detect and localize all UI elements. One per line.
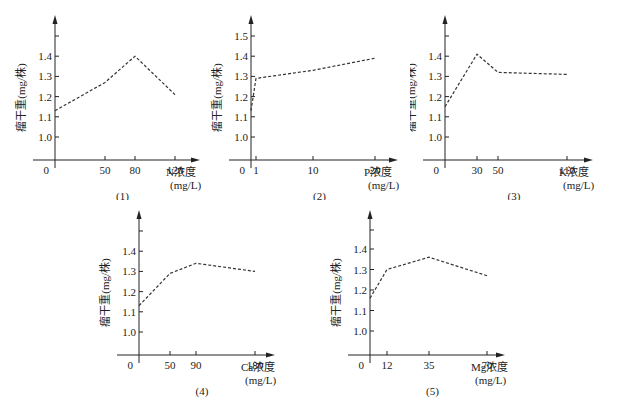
y-tick-label: 1.1 (234, 111, 248, 123)
x-axis-unit: (mg/L) (475, 374, 506, 387)
chart-panel-n: 1.01.11.21.31.405080120N浓度(mg/L)瘤干重(mg/株… (0, 0, 210, 200)
chart-caption: (3) (508, 190, 521, 200)
y-tick-label: 1.3 (38, 70, 52, 82)
y-axis-label: 瘤干重(mg/株) (410, 63, 418, 132)
y-tick-label: 1.2 (353, 284, 367, 296)
x-tick-label: 0 (240, 164, 246, 176)
chart-caption: (2) (313, 190, 326, 200)
y-tick-label: 1.2 (234, 91, 248, 103)
chart-panel-mg: 1.01.11.21.31.40123570Mg浓度(mg/L)瘤干重(mg/株… (330, 200, 565, 405)
chart-svg-0: 1.01.11.21.31.405080120N浓度(mg/L)瘤干重(mg/株… (0, 0, 210, 200)
x-axis-arrow-icon (496, 353, 505, 358)
x-tick-label: 1 (253, 164, 259, 176)
y-tick-label: 1.2 (38, 91, 52, 103)
chart-caption: (4) (196, 385, 209, 398)
y-tick-label: 1.4 (428, 50, 442, 62)
data-line (139, 263, 255, 305)
x-tick-label: 50 (493, 164, 505, 176)
x-tick-label: 50 (165, 359, 177, 371)
y-tick-label: 1.3 (353, 264, 367, 276)
x-axis-arrow-icon (584, 158, 593, 163)
x-axis-unit: (mg/L) (245, 374, 276, 387)
y-tick-label: 1.3 (122, 265, 136, 277)
chart-svg-3: 1.01.11.21.31.405090180Ca浓度(mg/L)瘤干重(mg/… (90, 200, 315, 405)
y-tick-label: 1.2 (122, 286, 136, 298)
x-tick-label: 50 (100, 164, 112, 176)
chart-caption: (1) (116, 190, 129, 200)
y-axis-label: 瘤干重(mg/株) (14, 63, 28, 132)
chart-panel-k: 1.01.11.21.31.403050110K浓度(mg/L)瘤干重(mg/株… (410, 0, 618, 200)
x-tick-label: 12 (382, 359, 393, 371)
y-tick-label: 1.1 (428, 111, 442, 123)
y-tick-label: 1.4 (122, 245, 136, 257)
x-axis-label: Ca浓度 (241, 360, 275, 373)
x-tick-label: 35 (424, 359, 436, 371)
chart-panel-p: 1.01.11.21.31.41.5011020P浓度(mg/L)瘤干重(mg/… (205, 0, 415, 200)
y-axis-arrow-icon (53, 15, 58, 24)
y-tick-label: 1.0 (234, 131, 248, 143)
y-axis-arrow-icon (443, 15, 448, 24)
y-tick-label: 1.0 (353, 325, 367, 337)
x-axis-unit: (mg/L) (563, 179, 594, 192)
y-axis-label: 瘤干重(mg/株) (210, 63, 224, 132)
chart-svg-4: 1.01.11.21.31.40123570Mg浓度(mg/L)瘤干重(mg/株… (330, 200, 565, 405)
x-tick-label: 80 (130, 164, 142, 176)
chart-svg-2: 1.01.11.21.31.403050110K浓度(mg/L)瘤干重(mg/株… (410, 0, 618, 200)
y-tick-label: 1.3 (234, 70, 248, 82)
y-tick-label: 1.1 (122, 306, 136, 318)
y-tick-label: 1.0 (38, 131, 52, 143)
x-axis-unit: (mg/L) (368, 179, 399, 192)
y-tick-label: 1.4 (38, 50, 52, 62)
y-tick-label: 1.3 (428, 70, 442, 82)
y-axis-label: 瘤干重(mg/株) (330, 258, 343, 327)
data-line (251, 58, 375, 110)
x-axis-label: N浓度 (166, 165, 196, 178)
y-axis-arrow-icon (249, 15, 254, 24)
x-axis-label: Mg浓度 (471, 360, 508, 373)
y-tick-label: 1.1 (38, 111, 52, 123)
x-tick-label: 0 (359, 359, 365, 371)
x-axis-arrow-icon (191, 158, 200, 163)
data-line (370, 257, 487, 298)
x-tick-label: 30 (472, 164, 484, 176)
x-axis-label: K浓度 (559, 165, 589, 178)
x-tick-label: 10 (308, 164, 320, 176)
data-line (55, 56, 175, 110)
y-tick-label: 1.1 (353, 305, 367, 317)
y-axis-arrow-icon (137, 210, 142, 219)
x-tick-label: 0 (44, 164, 50, 176)
x-tick-label: 0 (434, 164, 440, 176)
y-axis-arrow-icon (368, 210, 373, 219)
x-axis-arrow-icon (266, 353, 275, 358)
chart-caption: (5) (426, 385, 439, 398)
chart-panel-ca: 1.01.11.21.31.405090180Ca浓度(mg/L)瘤干重(mg/… (90, 200, 315, 405)
y-tick-label: 1.4 (234, 50, 248, 62)
y-tick-label: 1.2 (428, 91, 442, 103)
y-tick-label: 1.4 (353, 243, 367, 255)
x-axis-arrow-icon (389, 158, 398, 163)
y-tick-label: 1.5 (234, 30, 248, 42)
chart-svg-1: 1.01.11.21.31.41.5011020P浓度(mg/L)瘤干重(mg/… (205, 0, 415, 200)
x-axis-label: P浓度 (364, 165, 392, 178)
y-axis-label: 瘤干重(mg/株) (98, 258, 112, 327)
x-tick-label: 0 (128, 359, 134, 371)
x-tick-label: 90 (191, 359, 203, 371)
data-line (445, 54, 567, 106)
y-tick-label: 1.0 (428, 131, 442, 143)
x-axis-unit: (mg/L) (170, 179, 201, 192)
y-tick-label: 1.0 (122, 326, 136, 338)
